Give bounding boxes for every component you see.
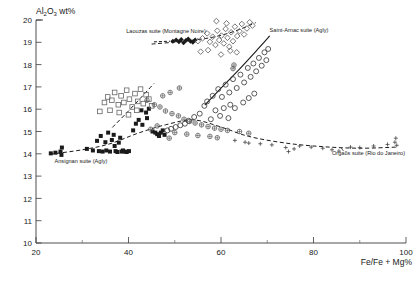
x-axis-label: Fe/Fe + Mg% (361, 257, 413, 267)
marker-open-diamond (214, 18, 220, 24)
marker-filled-square (140, 123, 144, 127)
y-tick-label: 20 (23, 16, 32, 25)
marker-filled-square (99, 134, 103, 138)
y-tick-label: 18 (23, 61, 32, 70)
marker-open-circle (245, 65, 250, 70)
chart-root: 101112131415161718192020406080100 Laouza… (0, 0, 419, 282)
marker-filled-square (161, 128, 165, 132)
marker-filled-square (137, 118, 141, 122)
marker-open-circle (226, 116, 231, 121)
x-tick-label: 40 (124, 248, 133, 257)
marker-open-diamond (232, 24, 238, 30)
marker-open-circle (227, 90, 232, 95)
axes-layer: 101112131415161718192020406080100 (23, 16, 413, 257)
marker-open-diamond (239, 21, 245, 27)
y-tick-label: 14 (23, 150, 32, 159)
marker-filled-square (163, 133, 167, 137)
marker-filled-square (112, 133, 116, 137)
marker-filled-square (127, 149, 131, 153)
marker-open-square (122, 100, 127, 105)
marker-filled-square (85, 147, 89, 151)
marker-open-square (116, 102, 121, 107)
marker-open-circle (248, 74, 253, 79)
marker-open-circle (254, 69, 259, 74)
marker-open-circle (197, 111, 202, 116)
series-open-diamond (195, 18, 255, 57)
marker-filled-square (110, 138, 114, 142)
marker-filled-square (144, 111, 148, 115)
marker-open-diamond (215, 28, 221, 34)
marker-filled-square (117, 141, 121, 145)
marker-open-circle (242, 80, 247, 85)
marker-open-diamond (213, 42, 219, 48)
ansignan-label: Ansignan suite (Agly) (55, 158, 108, 164)
marker-open-circle (202, 103, 207, 108)
marker-open-diamond (244, 26, 250, 32)
marker-open-circle (251, 61, 256, 66)
x-tick-label: 20 (32, 248, 41, 257)
marker-open-diamond (223, 26, 229, 32)
marker-filled-square (139, 108, 143, 112)
marker-filled-square (59, 153, 63, 157)
laouzas-label: Laouzas suite (Montagne Noire) (126, 28, 206, 34)
marker-filled-square (49, 151, 53, 155)
marker-open-circle (228, 102, 233, 107)
marker-open-square (133, 91, 138, 96)
marker-open-diamond (205, 47, 211, 53)
marker-open-diamond (250, 23, 256, 29)
marker-open-circle (219, 94, 224, 99)
marker-open-square (141, 101, 146, 106)
y-tick-label: 16 (23, 105, 32, 114)
x-tick-label: 80 (309, 248, 318, 257)
marker-open-diamond (207, 39, 213, 45)
marker-open-square (138, 87, 143, 92)
marker-open-circle (192, 115, 197, 120)
marker-open-square (112, 90, 117, 95)
marker-open-circle (259, 63, 264, 68)
marker-filled-square (134, 122, 138, 126)
marker-filled-square (91, 148, 95, 152)
marker-open-circle (232, 106, 237, 111)
marker-filled-square (101, 150, 105, 154)
marker-filled-square (118, 136, 122, 140)
marker-filled-square (147, 107, 151, 111)
marker-filled-square (113, 144, 117, 148)
saint-arnac-label: Saint-Arnac suite (Agly) (270, 27, 329, 33)
marker-open-diamond (241, 32, 247, 38)
marker-open-diamond (218, 52, 224, 58)
marker-filled-square (108, 150, 112, 154)
marker-open-diamond (230, 38, 236, 44)
marker-open-circle (234, 86, 239, 91)
marker-open-circle (252, 91, 257, 96)
marker-filled-square (106, 131, 110, 135)
marker-open-diamond (225, 35, 231, 41)
marker-filled-square (60, 146, 64, 150)
marker-filled-square (53, 151, 57, 155)
marker-filled-square (104, 148, 108, 152)
marker-open-square (98, 109, 103, 114)
marker-filled-square (95, 139, 99, 143)
marker-open-diamond (234, 50, 240, 56)
marker-filled-square (145, 116, 149, 120)
marker-open-square (117, 110, 122, 115)
y-tick-label: 13 (23, 172, 32, 181)
marker-open-circle (264, 58, 269, 63)
marker-open-square (108, 108, 113, 113)
marker-filled-square (97, 149, 101, 153)
marker-open-diamond (224, 21, 230, 27)
marker-open-square (127, 97, 132, 102)
marker-open-square (124, 88, 129, 93)
y-tick-label: 12 (23, 195, 32, 204)
marker-open-circle (256, 55, 261, 60)
y-tick-label: 17 (23, 83, 32, 92)
series-filled-diamond (170, 36, 197, 45)
marker-open-circle (241, 100, 246, 105)
marker-open-circle (238, 72, 243, 77)
marker-filled-square (115, 150, 119, 154)
marker-filled-square (131, 128, 135, 132)
marker-open-square (102, 100, 107, 105)
marker-open-circle (213, 108, 218, 113)
marker-open-diamond (198, 49, 204, 55)
marker-open-square (135, 108, 140, 113)
marker-open-circle (246, 96, 251, 101)
